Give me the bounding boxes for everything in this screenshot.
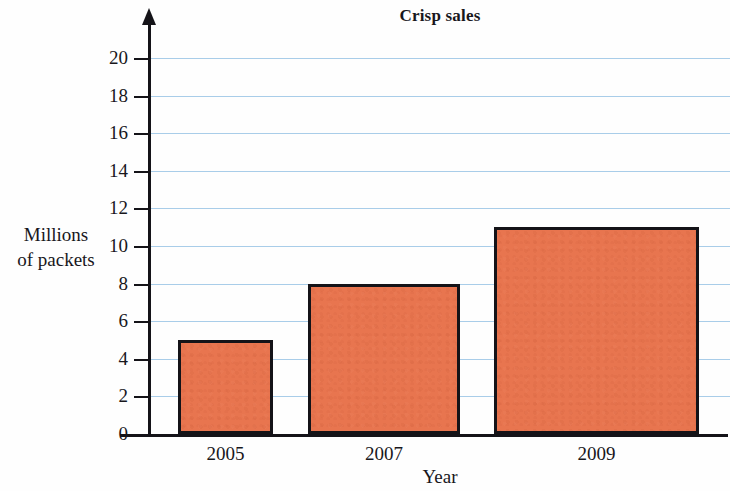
bar	[308, 284, 460, 434]
bar	[178, 340, 273, 434]
y-axis-tick-label: 6	[92, 310, 128, 332]
y-axis-tick	[134, 284, 150, 286]
x-axis-tick-label: 2007	[308, 443, 460, 465]
y-axis-tick	[134, 246, 150, 248]
y-axis-tick-label: 8	[92, 273, 128, 295]
bar	[494, 227, 699, 434]
y-axis-tick-label: 20	[92, 47, 128, 69]
y-axis-line	[148, 22, 151, 436]
y-axis-tick	[134, 208, 150, 210]
gridline	[150, 96, 730, 97]
x-axis-tick-label: 2009	[494, 443, 699, 465]
x-axis-title: Year	[150, 466, 730, 488]
y-axis-tick	[134, 359, 150, 361]
x-axis-tick-label: 2005	[178, 443, 273, 465]
y-axis-tick	[134, 96, 150, 98]
x-axis-line	[120, 434, 728, 437]
bar-texture	[311, 287, 457, 431]
y-axis-tick-label: 16	[92, 122, 128, 144]
y-axis-tick-label: 0	[92, 423, 128, 445]
y-axis-title: Millions of packets	[4, 222, 108, 272]
y-axis-tick	[134, 133, 150, 135]
y-axis-title-line-1: Millions	[4, 222, 108, 247]
gridline	[150, 133, 730, 134]
y-axis-tick-label: 18	[92, 85, 128, 107]
y-axis-tick-label: 14	[92, 160, 128, 182]
y-axis-tick-label: 2	[92, 385, 128, 407]
gridline	[150, 58, 730, 59]
bar-texture	[497, 230, 696, 431]
y-axis-tick-label: 12	[92, 197, 128, 219]
bar-texture	[181, 343, 270, 431]
gridline	[150, 208, 730, 209]
bar-chart: Crisp sales 02468101214161820 2005200720…	[0, 0, 730, 491]
y-axis-tick	[134, 171, 150, 173]
y-axis-tick	[134, 434, 150, 436]
y-axis-tick	[134, 396, 150, 398]
y-axis-tick	[134, 58, 150, 60]
plot-area	[150, 58, 730, 434]
y-axis-title-line-2: of packets	[4, 247, 108, 272]
y-axis-tick	[134, 321, 150, 323]
y-axis-tick-label: 4	[92, 348, 128, 370]
gridline	[150, 171, 730, 172]
